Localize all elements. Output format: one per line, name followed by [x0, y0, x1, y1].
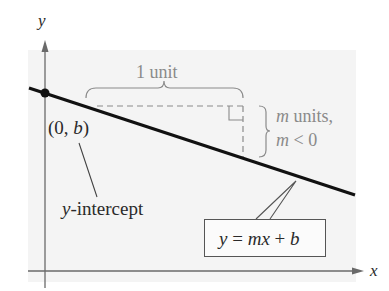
equation-label: y = mx + b: [219, 229, 300, 248]
run-label: 1 unit: [136, 63, 178, 81]
rise-label-m: m: [276, 106, 289, 126]
y-intercept-point: [41, 89, 50, 98]
x-axis-label: x: [370, 262, 378, 279]
slope-intercept-diagram: y x 1 unit m units, m < 0 (0, b) y-inter…: [0, 0, 389, 291]
rise-label-m2: m: [276, 130, 289, 150]
y-axis-label: y: [38, 12, 46, 29]
intercept-point-label: (0, b): [48, 118, 89, 137]
y-axis-arrow-icon: [42, 40, 49, 52]
y-intercept-label: y-intercept: [62, 199, 143, 218]
equation-box: y = mx + b: [204, 219, 326, 257]
x-axis-arrow-icon: [352, 268, 364, 275]
eq-plus: +: [270, 228, 290, 249]
intercept-close: ): [83, 117, 89, 138]
rise-label-units: units,: [289, 106, 333, 126]
rise-label-cond: < 0: [289, 130, 317, 150]
intercept-open: (0,: [48, 117, 73, 138]
eq-b: b: [290, 228, 300, 249]
y-intercept-text: -intercept: [70, 198, 143, 219]
eq-equals: =: [227, 228, 247, 249]
eq-x: x: [261, 228, 269, 249]
eq-m: m: [248, 228, 262, 249]
intercept-var: b: [73, 117, 83, 138]
rise-label: m units, m < 0: [276, 104, 333, 152]
